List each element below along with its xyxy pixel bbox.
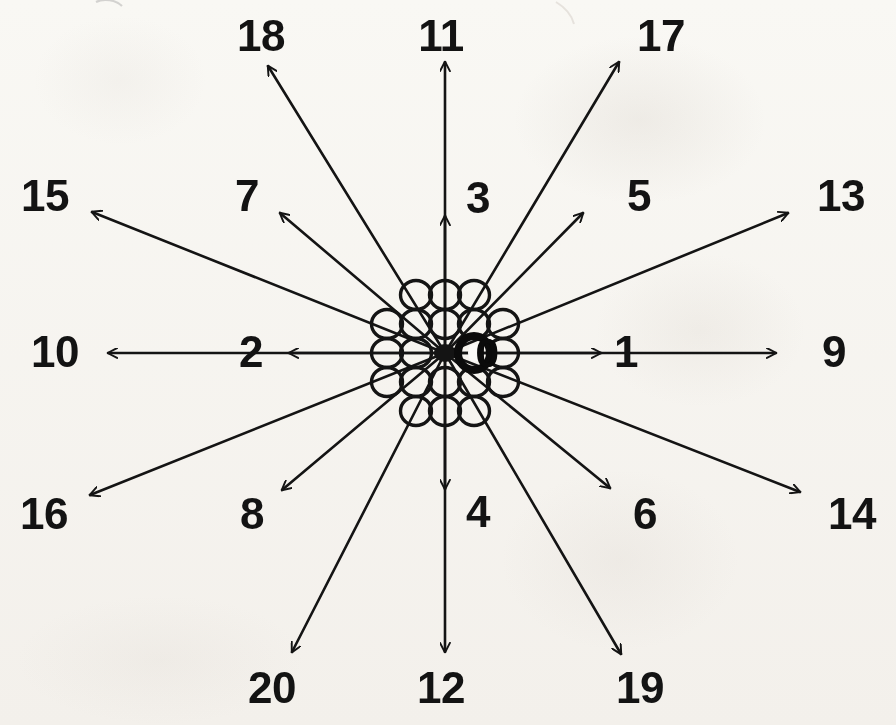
label-origin: 0 bbox=[476, 333, 498, 373]
ray-16 bbox=[90, 353, 445, 495]
label-13: 13 bbox=[817, 174, 865, 218]
label-16: 16 bbox=[20, 492, 68, 536]
ray-15 bbox=[92, 212, 445, 353]
label-9: 9 bbox=[822, 330, 846, 374]
lattice-circle bbox=[401, 368, 432, 397]
lattice-circle bbox=[372, 368, 403, 397]
label-8: 8 bbox=[240, 492, 264, 536]
label-11: 11 bbox=[418, 14, 464, 58]
label-20: 20 bbox=[248, 666, 296, 710]
origin-convergence-blot bbox=[434, 344, 456, 362]
figure-canvas: 0 1 2 3 4 5 6 7 8 9 10 11 12 13 14 15 16… bbox=[0, 0, 896, 725]
label-2: 2 bbox=[239, 330, 263, 374]
label-4: 4 bbox=[466, 490, 490, 534]
label-17: 17 bbox=[637, 14, 685, 58]
label-15: 15 bbox=[21, 174, 69, 218]
label-5: 5 bbox=[627, 174, 651, 218]
label-6: 6 bbox=[633, 492, 657, 536]
ray-8 bbox=[282, 353, 445, 490]
scan-artifact-top bbox=[96, 0, 574, 24]
label-1: 1 bbox=[614, 330, 638, 374]
label-10: 10 bbox=[31, 330, 79, 374]
label-3: 3 bbox=[466, 176, 490, 220]
label-7: 7 bbox=[235, 174, 259, 218]
label-19: 19 bbox=[616, 666, 664, 710]
diagram-vector-layer bbox=[0, 0, 896, 725]
label-14: 14 bbox=[828, 492, 876, 536]
label-12: 12 bbox=[417, 666, 465, 710]
label-18: 18 bbox=[237, 14, 285, 58]
lattice-circle bbox=[372, 310, 403, 339]
ray-7 bbox=[280, 213, 445, 353]
